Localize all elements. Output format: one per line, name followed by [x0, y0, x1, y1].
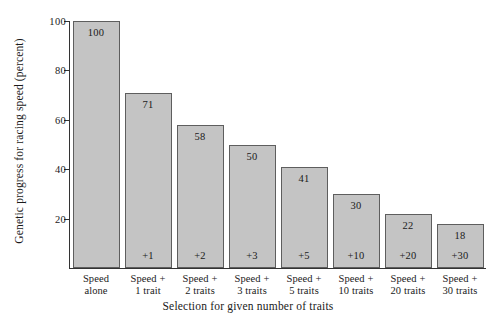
- y-axis-line: [69, 21, 70, 269]
- chart-figure: Genetic progress for racing speed (perce…: [0, 0, 496, 322]
- y-axis-title: Genetic progress for racing speed (perce…: [13, 11, 25, 271]
- bar-delta-label: +5: [282, 250, 327, 261]
- bar-value-label: 18: [438, 230, 483, 241]
- x-axis-tick-label: Speed +10 traits: [330, 273, 382, 296]
- bar-delta-label: +3: [230, 250, 275, 261]
- x-axis-tick-label: Speed +30 traits: [434, 273, 486, 296]
- bar-delta-label: +10: [334, 250, 379, 261]
- bar: 30+10: [333, 194, 380, 268]
- bar: 100: [73, 21, 120, 268]
- bar-value-label: 30: [334, 200, 379, 211]
- y-axis-tick-label: 20: [55, 213, 66, 224]
- bar: 71+1: [125, 93, 172, 268]
- y-axis-tick-label: 60: [55, 114, 66, 125]
- x-axis-tick-label: Speed +20 traits: [382, 273, 434, 296]
- x-axis-title: Selection for given number of traits: [0, 300, 496, 312]
- bar: 58+2: [177, 125, 224, 268]
- x-axis-tick-label: Speed +5 traits: [278, 273, 330, 296]
- x-axis-tick-label: Speed +1 trait: [122, 273, 174, 296]
- bar-delta-label: +20: [386, 250, 431, 261]
- bar-value-label: 50: [230, 151, 275, 162]
- bar: 18+30: [437, 224, 484, 268]
- bar-value-label: 41: [282, 173, 327, 184]
- bar-value-label: 22: [386, 220, 431, 231]
- bar-delta-label: +30: [438, 250, 483, 261]
- plot-area: 20406080100 10071+158+250+341+530+1022+2…: [70, 21, 486, 268]
- y-axis-tick-label: 100: [49, 16, 66, 27]
- bar: 22+20: [385, 214, 432, 268]
- x-axis-line: [69, 268, 486, 269]
- bar-delta-label: +2: [178, 250, 223, 261]
- y-axis-tick-label: 40: [55, 164, 66, 175]
- bar-delta-label: +1: [126, 250, 171, 261]
- y-axis-tick-label: 80: [55, 65, 66, 76]
- x-axis-tick-label: Speed +3 traits: [226, 273, 278, 296]
- x-axis-tick-label: Speedalone: [70, 273, 122, 296]
- bar: 41+5: [281, 167, 328, 268]
- bar-value-label: 71: [126, 99, 171, 110]
- x-axis-tick-label: Speed +2 traits: [174, 273, 226, 296]
- bar-value-label: 58: [178, 131, 223, 142]
- bar: 50+3: [229, 145, 276, 269]
- bar-value-label: 100: [74, 27, 119, 38]
